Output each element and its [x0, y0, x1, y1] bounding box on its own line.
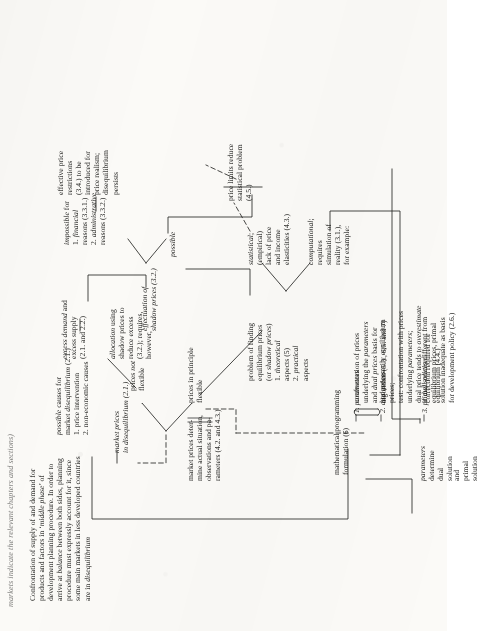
node-possible: possible: [168, 213, 177, 257]
node-statistical: statistical;(empirical)lack of priceand …: [246, 185, 291, 265]
node-problem-finding: problem of findingequilibrium prices(or …: [246, 291, 310, 381]
node-math-programming: mathematical programmingformulation (6): [332, 351, 350, 475]
wire-practical-computational: [286, 263, 310, 291]
node-effectuation: effectuation ofshadow prices (3.2.): [140, 245, 158, 331]
brace-label-parameters-dual: parametersdeterminedualsolution: [418, 417, 454, 481]
wire-practical-statistical: [262, 263, 286, 291]
node-effective-price-restrictions: effective pricerestrictions(3.4.) to bei…: [56, 109, 120, 195]
wire-math-left-bracket: [366, 479, 412, 513]
wire-causes-dash: [138, 435, 166, 463]
node-root: Confrontation of supply of and demand fo…: [28, 449, 92, 601]
wire-fork-upper: [142, 403, 166, 431]
node-excess-demand-supply: excess demand andexcess supply(2.1. and …: [60, 273, 87, 359]
brace-label-primal: andprimalsolution: [452, 417, 479, 481]
node-computational: computational;requiressimulation ofreali…: [306, 185, 351, 265]
running-head: markets indicate the relevant chapters a…: [6, 277, 15, 607]
node-market-prices-determine: market prices deter-mine actual situatio…: [186, 379, 222, 481]
wire-problem-effectuation: [186, 269, 250, 295]
node-item3-body: if dual prices different fromequilibrium…: [420, 239, 456, 403]
